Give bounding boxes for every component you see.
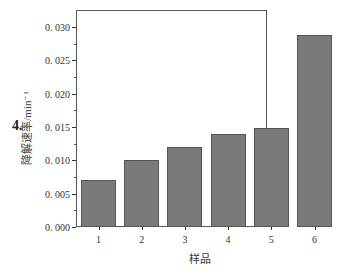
bar-sample-1 [81, 180, 116, 227]
x-tick-label: 5 [269, 234, 274, 245]
x-tick-label: 1 [96, 234, 101, 245]
y-minor-tick [74, 210, 76, 211]
bar-sample-5 [254, 128, 289, 227]
y-tick [72, 194, 76, 195]
x-axis-label: 样品 [189, 250, 211, 266]
bar-sample-4 [211, 134, 246, 227]
y-tick-label: 0. 005 [45, 188, 70, 199]
x-tick [142, 227, 143, 230]
y-tick [72, 60, 76, 61]
x-tick-label: 3 [182, 234, 187, 245]
y-tick-label: 0. 025 [45, 55, 70, 66]
y-minor-tick [74, 110, 76, 111]
bar-sample-6 [297, 35, 332, 227]
bar-sample-2 [124, 160, 159, 227]
bar-sample-3 [167, 147, 202, 227]
y-tick [72, 160, 76, 161]
y-tick-label: 0. 020 [45, 88, 70, 99]
x-tick [228, 227, 229, 230]
y-minor-tick [74, 44, 76, 45]
y-tick [72, 127, 76, 128]
y-tick-label: 0. 000 [45, 222, 70, 233]
y-axis-label: 降解速率/min⁻¹ [18, 91, 34, 164]
y-tick-label: 0. 015 [45, 122, 70, 133]
x-tick-label: 4 [226, 234, 231, 245]
x-tick-label: 6 [312, 234, 317, 245]
y-tick [72, 227, 76, 228]
x-tick [315, 227, 316, 230]
y-tick-label: 0. 010 [45, 155, 70, 166]
x-tick [99, 227, 100, 230]
x-tick-label: 2 [139, 234, 144, 245]
y-minor-tick [74, 77, 76, 78]
y-tick [72, 94, 76, 95]
y-tick [72, 27, 76, 28]
x-tick [271, 227, 272, 230]
y-minor-tick [74, 144, 76, 145]
y-tick-label: 0. 030 [45, 22, 70, 33]
x-tick [185, 227, 186, 230]
y-minor-tick [74, 177, 76, 178]
